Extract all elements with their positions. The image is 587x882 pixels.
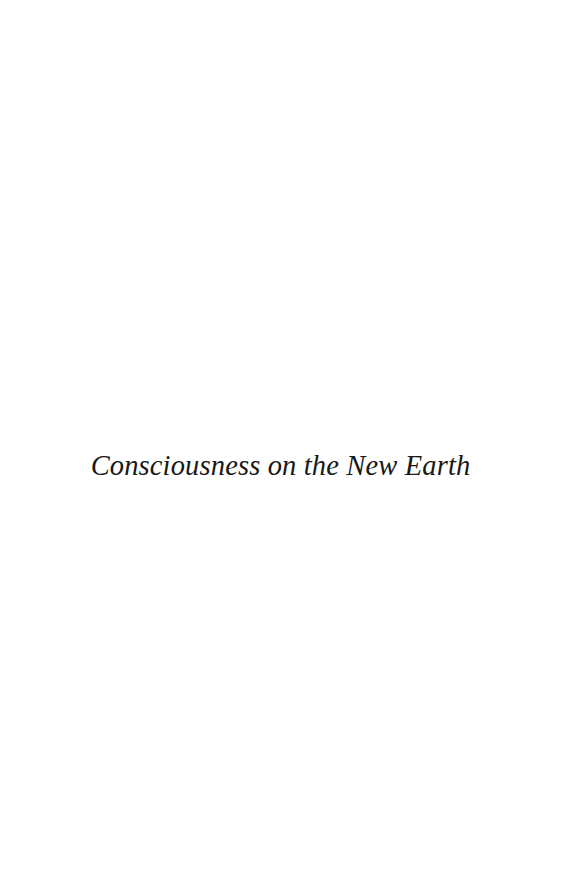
book-page: Consciousness on the New Earth [0, 0, 587, 882]
part-title: Consciousness on the New Earth [91, 450, 471, 483]
blank-region-bottom [0, 492, 587, 882]
blank-region-top [0, 0, 587, 440]
part-title-block: Consciousness on the New Earth [0, 440, 587, 492]
